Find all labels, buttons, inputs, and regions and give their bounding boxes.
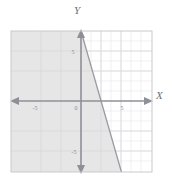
x-tick-label-5: 5	[121, 105, 124, 111]
coordinate-plane-svg: 5 -5 -5 5 0	[0, 0, 172, 180]
x-tick-label-neg5: -5	[33, 105, 38, 111]
y-tick-label-neg5: -5	[72, 149, 77, 155]
x-axis-title: X	[156, 89, 163, 101]
y-tick-label-5: 5	[72, 49, 75, 55]
origin-label: 0	[75, 105, 78, 111]
graph-figure: 5 -5 -5 5 0 Y X	[0, 0, 172, 180]
y-axis-title: Y	[74, 4, 80, 16]
